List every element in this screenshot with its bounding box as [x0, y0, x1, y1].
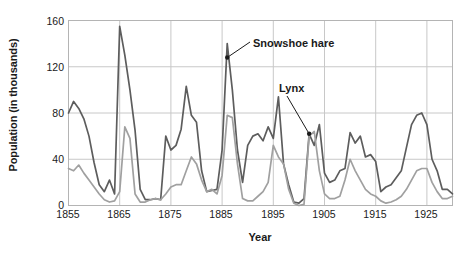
leader-line-snowshoe-hare [227, 42, 250, 58]
x-tick-1925: 1925 [414, 208, 437, 220]
x-tick-1885: 1885 [209, 208, 232, 220]
x-tick-1895: 1895 [261, 208, 284, 220]
x-tick-1865: 1865 [107, 208, 130, 220]
y-tick-120: 120 [30, 61, 64, 73]
y-tick-160: 160 [30, 15, 64, 27]
y-axis-title: Population (in thousands) [0, 0, 26, 210]
y-axis-title-text: Population (in thousands) [7, 38, 19, 171]
leader-dot-lynx [307, 132, 311, 136]
y-tick-80: 80 [30, 107, 64, 119]
leader-line-lynx [287, 96, 309, 134]
series-line-lynx [69, 115, 453, 205]
population-cycle-chart: Population (in thousands) 160 120 80 40 … [0, 0, 472, 253]
x-axis-title: Year [68, 231, 452, 243]
series-label-snowshoe-hare: Snowshoe hare [253, 37, 334, 49]
leader-dot-snowshoe-hare [225, 55, 229, 59]
x-tick-1915: 1915 [363, 208, 386, 220]
y-tick-40: 40 [30, 153, 64, 165]
x-tick-1905: 1905 [312, 208, 335, 220]
x-tick-1855: 1855 [56, 208, 79, 220]
series-label-lynx: Lynx [279, 82, 304, 94]
series-line-snowshoe-hare [69, 26, 453, 203]
series-lines [69, 26, 453, 205]
x-tick-1875: 1875 [158, 208, 181, 220]
